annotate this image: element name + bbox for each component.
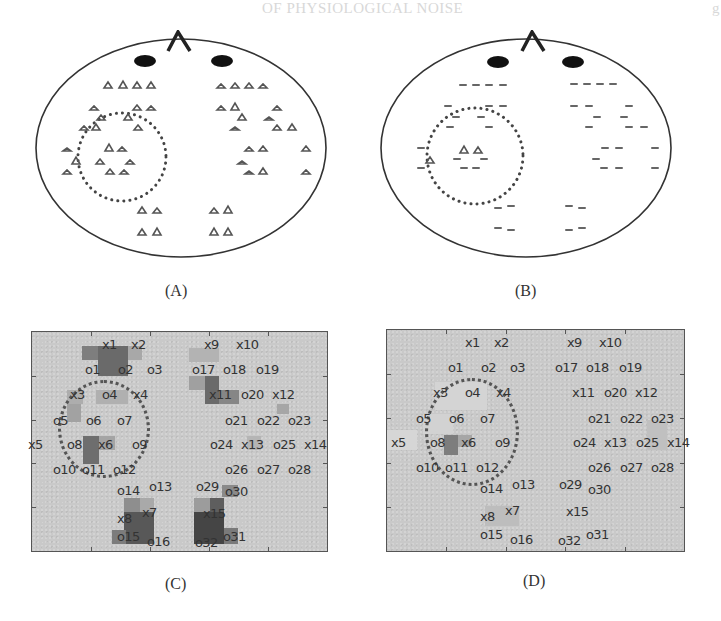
channel-label-o10: o10 — [416, 461, 439, 474]
axis-tick — [32, 420, 36, 421]
channel-label-x7: x7 — [505, 504, 520, 517]
channel-label-x11: x11 — [209, 388, 231, 401]
channel-label-o13: o13 — [149, 480, 172, 493]
channel-label-o10: o10 — [53, 463, 76, 476]
ghost-right-text: g — [712, 0, 720, 17]
channel-label-o29: o29 — [559, 478, 582, 491]
channel-label-o26: o26 — [588, 461, 611, 474]
channel-label-o24: o24 — [573, 436, 596, 449]
channel-label-o5: o5 — [53, 414, 68, 427]
axis-tick — [323, 420, 327, 421]
axis-tick — [680, 463, 684, 464]
channel-label-x3: x3 — [70, 388, 85, 401]
channel-label-o21: o21 — [588, 412, 611, 425]
axis-tick — [506, 330, 507, 334]
channel-label-o30: o30 — [588, 483, 611, 496]
channel-label-o2: o2 — [481, 361, 496, 374]
axis-tick — [209, 332, 210, 336]
channel-label-o28: o28 — [288, 463, 311, 476]
panel-a-label: (A) — [165, 282, 187, 300]
axis-tick — [268, 332, 269, 336]
channel-label-o4: o4 — [465, 386, 480, 399]
axis-tick — [680, 374, 684, 375]
panel-d-activation-map: x1x2o1o2o3x3o4x4o5o6o7x5o8x6o9o10o11o12o… — [386, 329, 685, 552]
axis-tick — [387, 374, 391, 375]
channel-label-x2: x2 — [494, 336, 509, 349]
channel-label-o2: o2 — [118, 363, 133, 376]
channel-label-o15: o15 — [480, 528, 503, 541]
channel-label-x4: x4 — [133, 388, 148, 401]
axis-tick — [387, 463, 391, 464]
channel-label-x5: x5 — [391, 436, 406, 449]
axis-tick — [323, 507, 327, 508]
channel-label-x4: x4 — [496, 386, 511, 399]
heat-cell — [124, 498, 140, 512]
channel-label-o20: o20 — [604, 386, 627, 399]
channel-label-o11: o11 — [82, 463, 105, 476]
channel-label-o27: o27 — [257, 463, 280, 476]
channel-label-x6: x6 — [98, 438, 113, 451]
channel-label-o9: o9 — [132, 438, 147, 451]
channel-label-o12: o12 — [476, 461, 499, 474]
channel-label-o6: o6 — [86, 414, 101, 427]
axis-tick — [32, 463, 36, 464]
channel-label-x9: x9 — [204, 338, 219, 351]
channel-label-o31: o31 — [223, 530, 246, 543]
axis-tick — [387, 507, 391, 508]
channel-label-x8: x8 — [480, 510, 495, 523]
axis-tick — [268, 547, 269, 551]
channel-label-o25: o25 — [273, 438, 296, 451]
channel-label-o3: o3 — [147, 363, 162, 376]
channel-label-o4: o4 — [102, 388, 117, 401]
axis-tick — [680, 507, 684, 508]
channel-label-x3: x3 — [433, 386, 448, 399]
channel-label-o32: o32 — [558, 534, 581, 547]
channel-label-o11: o11 — [445, 461, 468, 474]
axis-tick — [625, 547, 626, 551]
channel-label-o22: o22 — [257, 414, 280, 427]
channel-label-o25: o25 — [636, 436, 659, 449]
channel-label-x15: x15 — [203, 507, 225, 520]
channel-label-x9: x9 — [567, 336, 582, 349]
channel-label-o26: o26 — [225, 463, 248, 476]
channel-label-o28: o28 — [651, 461, 674, 474]
channel-label-o8: o8 — [67, 438, 82, 451]
channel-label-x12: x12 — [272, 388, 294, 401]
channel-label-x8: x8 — [117, 512, 132, 525]
channel-label-o32: o32 — [195, 536, 218, 549]
channel-label-o1: o1 — [85, 363, 100, 376]
channel-label-o3: o3 — [510, 361, 525, 374]
axis-tick — [91, 332, 92, 336]
channel-label-o17: o17 — [192, 363, 215, 376]
panel-d-label: (D) — [523, 572, 545, 590]
channel-label-o5: o5 — [416, 412, 431, 425]
channel-label-x1: x1 — [102, 338, 117, 351]
panel-a-head-map — [32, 30, 337, 270]
axis-tick — [446, 547, 447, 551]
channel-label-x10: x10 — [236, 338, 258, 351]
channel-label-o17: o17 — [555, 361, 578, 374]
axis-tick — [625, 330, 626, 334]
channel-label-x1: x1 — [465, 336, 480, 349]
channel-label-o21: o21 — [225, 414, 248, 427]
axis-tick — [446, 330, 447, 334]
channel-label-x7: x7 — [142, 506, 157, 519]
axis-tick — [91, 547, 92, 551]
axis-tick — [32, 507, 36, 508]
heat-cell — [189, 376, 205, 390]
panel-c-label: (C) — [165, 575, 186, 593]
channel-label-o18: o18 — [586, 361, 609, 374]
channel-label-o19: o19 — [619, 361, 642, 374]
channel-label-o6: o6 — [449, 412, 464, 425]
channel-label-x14: x14 — [667, 436, 689, 449]
axis-tick — [150, 332, 151, 336]
channel-label-o31: o31 — [586, 528, 609, 541]
channel-label-x10: x10 — [599, 336, 621, 349]
channel-label-x5: x5 — [28, 438, 43, 451]
channel-label-x2: x2 — [131, 338, 146, 351]
channel-label-o16: o16 — [147, 535, 170, 548]
axis-tick — [323, 463, 327, 464]
channel-label-o7: o7 — [117, 414, 132, 427]
channel-label-o15: o15 — [117, 530, 140, 543]
channel-label-o14: o14 — [480, 482, 503, 495]
